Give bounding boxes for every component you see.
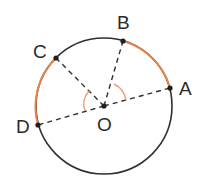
segment-oc <box>56 58 104 106</box>
circle-diagram: A B C D O <box>0 0 201 184</box>
label-c: C <box>33 41 47 62</box>
point-c <box>53 55 58 60</box>
label-d: D <box>16 116 30 137</box>
point-o <box>101 103 106 108</box>
arc-cd <box>35 58 56 125</box>
label-a: A <box>179 78 192 99</box>
segment-oa <box>104 88 170 106</box>
point-d <box>35 122 40 127</box>
angle-mark-cod <box>84 91 89 111</box>
segment-od <box>38 106 104 125</box>
point-a <box>167 85 172 90</box>
label-b: B <box>117 12 130 33</box>
angle-mark-aob <box>114 84 126 100</box>
segment-ob <box>104 41 123 106</box>
point-b <box>120 38 125 43</box>
arc-ab <box>123 41 170 88</box>
label-o: O <box>97 114 112 135</box>
